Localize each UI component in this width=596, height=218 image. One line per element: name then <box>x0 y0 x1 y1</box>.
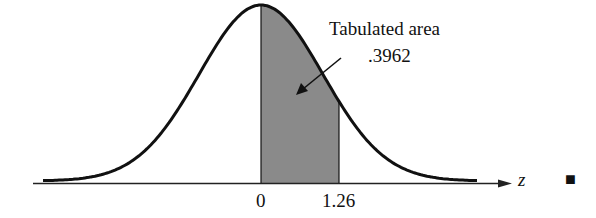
tick-label-1.26: 1.26 <box>322 191 355 210</box>
tick-label-0: 0 <box>256 191 266 210</box>
end-of-example-marker: ■ <box>565 170 576 188</box>
axis-arrowhead <box>498 180 512 188</box>
annotation-title: Tabulated area <box>329 19 440 38</box>
axis-variable-z: z <box>518 170 525 189</box>
annotation-value: .3962 <box>368 46 411 65</box>
normal-curve-diagram <box>0 0 596 218</box>
shaded-area <box>261 5 339 183</box>
